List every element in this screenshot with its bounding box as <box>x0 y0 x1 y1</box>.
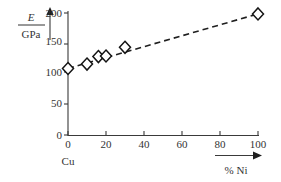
data-point-marker <box>63 63 74 75</box>
youngs-modulus-vs-nickel-scatter-chart: E GPa 200 150 100 50 0 <box>0 0 281 182</box>
y-tick-label-0: 0 <box>57 129 63 141</box>
y-axis-label-numerator: E <box>27 11 35 23</box>
x-tick-label-60: 60 <box>177 138 189 150</box>
origin-axis-label-cu: Cu <box>62 155 75 167</box>
x-tick-label-40: 40 <box>139 138 151 150</box>
y-axis-tick-labels: 200 150 100 50 0 <box>46 7 63 141</box>
data-point-marker <box>82 58 93 70</box>
y-tick-label-100: 100 <box>46 66 63 78</box>
x-tick-label-0: 0 <box>65 138 71 150</box>
x-tick-label-100: 100 <box>250 138 267 150</box>
y-tick-label-200: 200 <box>46 7 63 19</box>
x-tick-label-80: 80 <box>215 138 227 150</box>
x-axis-label-percent-ni: % Ni <box>225 164 248 176</box>
y-tick-label-150: 150 <box>46 35 63 47</box>
x-tick-label-20: 20 <box>101 138 113 150</box>
x-axis-tick-labels: 0 20 40 60 80 100 <box>65 138 267 150</box>
chart-container: E GPa 200 150 100 50 0 <box>0 0 281 182</box>
y-axis-label-denominator: GPa <box>22 28 41 40</box>
x-axis-tick-marks <box>68 131 258 136</box>
data-point-markers <box>63 8 264 75</box>
data-point-marker <box>101 50 112 62</box>
y-tick-label-50: 50 <box>51 97 63 109</box>
data-point-marker <box>253 8 264 20</box>
y-axis-label-group: E GPa <box>18 11 45 40</box>
right-arrow-icon <box>215 152 262 160</box>
